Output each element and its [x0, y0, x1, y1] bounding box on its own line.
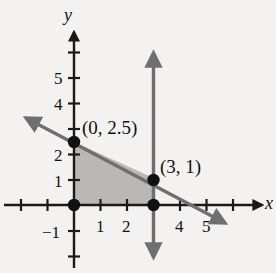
point-label-0-2-5: (0, 2.5)	[82, 118, 137, 137]
y-axis-label: y	[64, 6, 72, 24]
x-tick-label-5: 5	[202, 218, 211, 235]
y-tick-label-minus-1: −1	[42, 224, 60, 241]
coordinate-plane-figure: y x 1 2 4 5 −1 1 2 4 5 (0, 2.5) (3, 1)	[0, 0, 276, 273]
y-tick-label-1: 1	[54, 173, 63, 190]
y-tick-label-2: 2	[54, 147, 63, 164]
x-axis-label: x	[265, 194, 273, 212]
point-3-1	[147, 174, 159, 186]
x-tick-label-2: 2	[122, 218, 131, 235]
point-3-0	[147, 199, 159, 211]
x-tick-label-1: 1	[96, 218, 105, 235]
y-tick-label-4: 4	[54, 96, 63, 113]
y-tick-label-5: 5	[54, 70, 63, 87]
x-tick-label-4: 4	[175, 218, 184, 235]
point-0-2-5	[68, 136, 80, 148]
point-label-3-1: (3, 1)	[160, 157, 201, 176]
point-origin	[68, 199, 80, 211]
